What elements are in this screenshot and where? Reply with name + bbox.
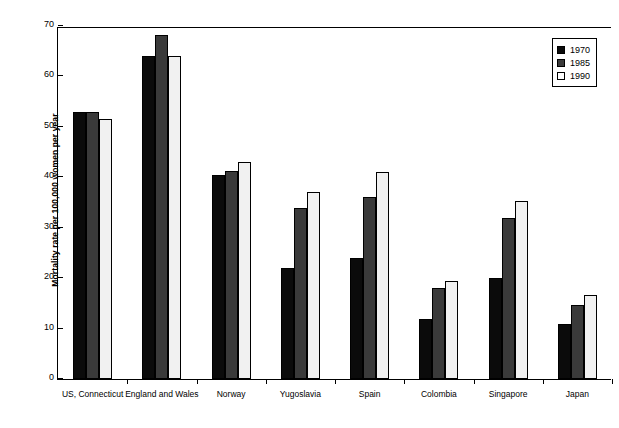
y-axis-tick-label: 50 xyxy=(44,120,54,130)
bar-1990[interactable] xyxy=(515,201,528,379)
bar-1990[interactable] xyxy=(307,192,320,379)
plot-inner: 010203040506070US, ConnecticutEngland an… xyxy=(58,28,611,379)
legend-item-1985[interactable]: 1985 xyxy=(557,56,590,69)
x-axis-category-label: Japan xyxy=(522,388,619,400)
legend-label: 1990 xyxy=(570,71,590,81)
bar-1990[interactable] xyxy=(238,162,251,379)
y-axis-tick: 70 xyxy=(58,25,63,26)
bar-1970[interactable] xyxy=(73,112,86,379)
x-axis-tick xyxy=(474,379,475,384)
y-axis-tick-label: 20 xyxy=(44,271,54,281)
y-axis-tick-label: 70 xyxy=(44,19,54,29)
bar-1990[interactable] xyxy=(445,281,458,379)
x-axis-tick xyxy=(612,379,613,384)
chart-legend: 197019851990 xyxy=(552,38,597,87)
legend-swatch-icon xyxy=(557,72,565,80)
x-axis-tick xyxy=(335,379,336,384)
bar-1970[interactable] xyxy=(212,175,225,379)
bar-1970[interactable] xyxy=(558,324,571,379)
bar-group: US, Connecticut xyxy=(58,28,127,379)
y-axis-tick-label: 30 xyxy=(44,221,54,231)
bar-1970[interactable] xyxy=(142,56,155,379)
y-axis-tick-label: 10 xyxy=(44,322,54,332)
x-axis-tick xyxy=(127,379,128,384)
bar-1985[interactable] xyxy=(155,35,168,379)
bar-group: England and Wales xyxy=(127,28,196,379)
bar-chart-figure: Mortality rate per 100,000 women per yea… xyxy=(0,0,619,428)
bar-1985[interactable] xyxy=(502,218,515,379)
bar-group: Spain xyxy=(335,28,404,379)
y-axis-tick-label: 60 xyxy=(44,69,54,79)
bar-group: Norway xyxy=(197,28,266,379)
bar-group: Singapore xyxy=(474,28,543,379)
bar-1985[interactable] xyxy=(432,288,445,379)
x-axis-tick xyxy=(266,379,267,384)
bar-1985[interactable] xyxy=(294,208,307,379)
bar-1985[interactable] xyxy=(225,171,238,379)
legend-swatch-icon xyxy=(557,46,565,54)
bar-1970[interactable] xyxy=(489,278,502,379)
plot-area: 010203040506070US, ConnecticutEngland an… xyxy=(57,27,611,380)
y-axis-tick-label: 40 xyxy=(44,170,54,180)
y-axis-tick-label: 0 xyxy=(49,372,54,382)
x-axis-tick xyxy=(197,379,198,384)
x-axis-tick xyxy=(543,379,544,384)
bar-1970[interactable] xyxy=(350,258,363,379)
bar-1990[interactable] xyxy=(99,119,112,379)
bar-1990[interactable] xyxy=(168,56,181,379)
bar-group: Colombia xyxy=(404,28,473,379)
bar-1970[interactable] xyxy=(281,268,294,379)
legend-label: 1970 xyxy=(570,45,590,55)
bar-1970[interactable] xyxy=(419,319,432,380)
legend-swatch-icon xyxy=(557,59,565,67)
bar-1985[interactable] xyxy=(86,112,99,379)
bar-group: Yugoslavia xyxy=(266,28,335,379)
bar-1985[interactable] xyxy=(571,305,584,379)
legend-label: 1985 xyxy=(570,58,590,68)
bar-1990[interactable] xyxy=(584,295,597,379)
bar-1990[interactable] xyxy=(376,172,389,379)
x-axis-tick xyxy=(404,379,405,384)
legend-item-1990[interactable]: 1990 xyxy=(557,69,590,82)
legend-item-1970[interactable]: 1970 xyxy=(557,43,590,56)
bar-1985[interactable] xyxy=(363,197,376,379)
